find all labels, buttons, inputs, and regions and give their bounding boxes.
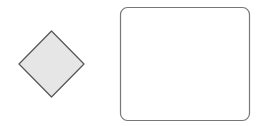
diamond[interactable]	[19, 31, 84, 97]
diagram-canvas	[0, 0, 260, 126]
rounded-rectangle[interactable]	[121, 8, 250, 121]
process-box-shape[interactable]	[121, 8, 250, 121]
decision-diamond-shape[interactable]	[19, 31, 84, 97]
